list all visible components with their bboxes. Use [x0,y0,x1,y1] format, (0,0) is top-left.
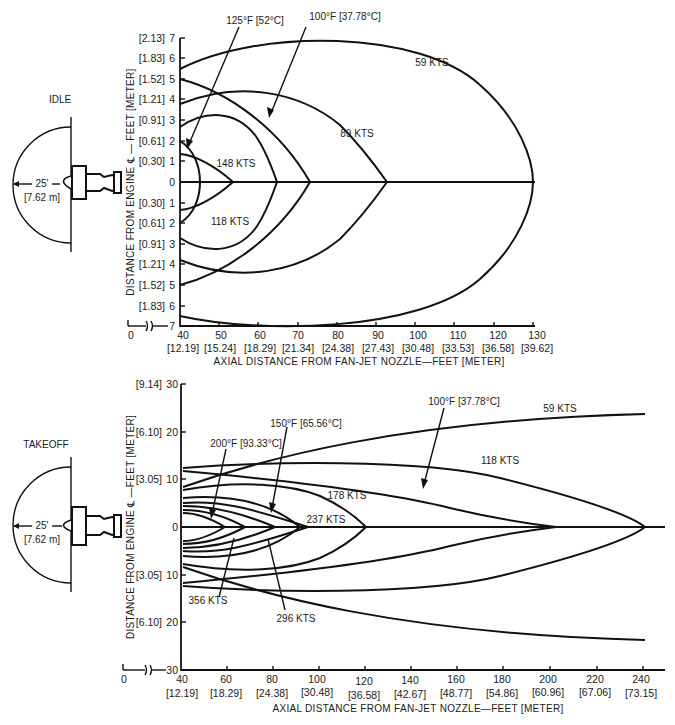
svg-text:5: 5 [169,279,175,291]
svg-text:40: 40 [176,673,188,685]
idle-label-59kts: 59 KTS [415,57,449,68]
takeoff-label-59kts: 59 KTS [543,403,577,414]
svg-text:[24.38]: [24.38] [322,342,354,354]
takeoff-y-ticks: 30 20 10 0 10 20 30 [9.14] [6.10] [3.05]… [136,378,186,676]
svg-text:[2.13]: [2.13] [139,32,165,44]
svg-text:[0.91]: [0.91] [139,114,165,126]
svg-text:[12.19]: [12.19] [167,342,199,354]
svg-text:20: 20 [166,616,178,628]
svg-text:[21.34]: [21.34] [282,342,314,354]
takeoff-mode-label: TAKEOFF [23,439,68,450]
svg-text:2: 2 [169,217,175,229]
takeoff-contour-59kts-lower [183,567,645,640]
svg-text:[27.43]: [27.43] [362,342,394,354]
idle-label-125f: 125°F [52°C] [226,15,284,26]
idle-y-ticks: 7 6 5 4 3 2 1 0 1 2 3 4 5 6 7 [2.13] [1.… [139,32,185,332]
takeoff-label-150f: 150°F [65.56°C] [270,418,342,429]
svg-text:[60.96]: [60.96] [532,686,564,698]
svg-text:60: 60 [254,329,266,341]
svg-text:240: 240 [632,673,650,685]
svg-text:80: 80 [332,329,344,341]
svg-text:20: 20 [166,426,178,438]
svg-text:[3.05]: [3.05] [136,569,162,581]
svg-text:180: 180 [493,673,511,685]
svg-text:[48.77]: [48.77] [440,687,472,699]
arrow-icon [421,478,428,489]
svg-text:[1.21]: [1.21] [139,93,165,105]
takeoff-chart: TAKEOFF 25' [7.62 m] DISTANCE FROM ENGIN… [13,378,665,714]
svg-text:3: 3 [169,114,175,126]
svg-text:[0.61]: [0.61] [139,135,165,147]
svg-text:[42.67]: [42.67] [394,688,426,700]
svg-text:0: 0 [128,329,134,341]
svg-text:[1.21]: [1.21] [139,258,165,270]
idle-label-100f: 100°F [37.78°C] [309,11,381,22]
svg-text:6: 6 [169,300,175,312]
idle-label-148kts: 148 KTS [217,158,256,169]
takeoff-label-296kts: 296 KTS [277,613,316,624]
svg-text:3: 3 [169,238,175,250]
takeoff-radius-meter: [7.62 m] [24,534,60,545]
svg-text:100: 100 [308,673,326,685]
svg-text:[6.10]: [6.10] [136,426,162,438]
idle-x-axis-title: AXIAL DISTANCE FROM FAN-JET NOZZLE—FEET … [214,356,505,367]
svg-text:[1.83]: [1.83] [139,52,165,64]
svg-text:[6.10]: [6.10] [136,616,162,628]
svg-text:1: 1 [169,197,175,209]
svg-text:4: 4 [169,93,175,105]
svg-text:[9.14]: [9.14] [136,378,162,390]
svg-text:7: 7 [169,320,175,332]
takeoff-label-200f: 200°F [93.33°C] [210,438,282,449]
jet-blast-diagram: IDLE 25' [7.62 m] DISTANCE FROM ENGINE ℄… [0,0,675,725]
svg-text:100: 100 [409,329,427,341]
svg-text:[30.48]: [30.48] [301,686,333,698]
takeoff-label-237kts: 237 KTS [307,514,346,525]
idle-engine-icon [13,117,121,252]
svg-text:50: 50 [215,329,227,341]
takeoff-x-axis-title: AXIAL DISTANCE FROM FAN-JET NOZZLE—FEET … [273,703,564,714]
svg-text:[18.29]: [18.29] [210,687,242,699]
takeoff-contour-59kts [183,414,645,487]
svg-text:[1.83]: [1.83] [139,300,165,312]
svg-text:4: 4 [169,258,175,270]
idle-mode-label: IDLE [49,94,72,105]
idle-chart: IDLE 25' [7.62 m] DISTANCE FROM ENGINE ℄… [13,11,553,367]
svg-text:[36.58]: [36.58] [482,342,514,354]
idle-radius-feet: 25' [35,178,48,189]
svg-text:[1.52]: [1.52] [139,73,165,85]
idle-axis-break-icon [128,320,168,331]
takeoff-label-356kts: 356 KTS [189,595,228,606]
takeoff-label-100f: 100°F [37.78°C] [428,396,500,407]
svg-text:[0.61]: [0.61] [139,217,165,229]
svg-text:[54.86]: [54.86] [486,687,518,699]
svg-text:5: 5 [169,73,175,85]
takeoff-x-ticks: 0 40 60 80 100 120 140 160 180 200 220 2… [121,666,657,701]
svg-text:[15.24]: [15.24] [204,342,236,354]
svg-text:110: 110 [450,329,467,341]
takeoff-axis-break-icon [123,664,166,675]
svg-text:220: 220 [586,673,604,685]
svg-text:1: 1 [169,155,175,167]
svg-text:120: 120 [355,675,373,687]
svg-text:200: 200 [539,673,557,685]
idle-label-118kts: 118 KTS [211,216,249,227]
takeoff-label-178kts: 178 KTS [328,490,367,501]
svg-text:140: 140 [401,674,419,686]
svg-text:[39.62]: [39.62] [521,342,553,354]
svg-text:[67.06]: [67.06] [579,686,611,698]
svg-text:[30.48]: [30.48] [402,342,434,354]
svg-text:10: 10 [166,473,178,485]
svg-text:6: 6 [169,52,175,64]
svg-text:0: 0 [121,673,127,685]
takeoff-engine-icon [13,457,121,592]
svg-text:10: 10 [166,569,178,581]
svg-text:7: 7 [169,32,175,44]
svg-text:90: 90 [372,329,384,341]
takeoff-y-axis-title: DISTANCE FROM ENGINE ℄ —FEET [METER] [125,415,136,639]
svg-text:120: 120 [489,329,507,341]
svg-text:80: 80 [266,673,278,685]
svg-text:130: 130 [528,329,546,341]
idle-radius-meter: [7.62 m] [24,192,60,203]
svg-text:[18.29]: [18.29] [244,342,276,354]
svg-text:[24.38]: [24.38] [256,687,288,699]
